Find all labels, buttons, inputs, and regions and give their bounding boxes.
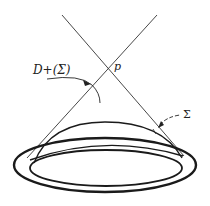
sigma-pointer-arrow — [160, 115, 180, 125]
diagram-canvas: D+(Σ) p Σ — [0, 0, 210, 206]
light-ray-right — [62, 15, 184, 156]
inner-ring — [30, 150, 182, 186]
domain-label: D+(Σ) — [32, 63, 71, 77]
domain-pointer-arrow — [47, 77, 100, 103]
light-ray-left — [27, 15, 157, 158]
surface-label: Σ — [183, 108, 191, 121]
disk-back-edge — [30, 145, 183, 160]
arrowhead-icon — [158, 121, 164, 128]
point-label: p — [114, 60, 121, 73]
